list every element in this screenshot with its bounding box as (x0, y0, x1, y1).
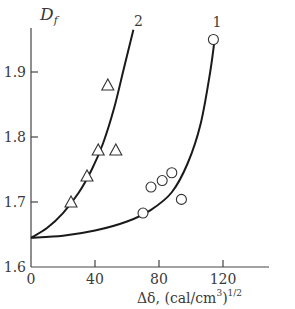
curve-1 (31, 36, 215, 238)
circle-marker (146, 182, 156, 192)
x-tick-label: 120 (210, 271, 237, 287)
chart-figure: 1.61.71.81.9 04080120 Df Δδ, (cal/cm3)1/… (0, 0, 295, 309)
circle-marker (167, 168, 177, 178)
x-tick-label: 0 (27, 271, 36, 287)
circle-marker (157, 176, 167, 186)
y-tick-label: 1.7 (4, 194, 26, 210)
curve-labels: 12 (134, 13, 222, 30)
curve-label-1: 1 (213, 14, 222, 30)
fit-curves (31, 30, 215, 238)
y-tick-label: 1.8 (4, 129, 26, 145)
triangle-marker (102, 79, 114, 90)
data-markers (65, 35, 218, 219)
curve-2 (31, 30, 133, 238)
x-ticks: 04080120 (27, 260, 237, 287)
y-axis-label: Df (39, 4, 60, 27)
circle-marker (138, 208, 148, 218)
curve-label-2: 2 (134, 13, 143, 29)
y-tick-label: 1.6 (4, 259, 26, 275)
axes (31, 28, 269, 267)
y-ticks: 1.61.71.81.9 (4, 64, 38, 275)
x-tick-label: 80 (150, 271, 168, 287)
triangle-marker (110, 144, 122, 155)
circle-marker (176, 194, 186, 204)
circle-marker (208, 35, 218, 45)
y-tick-label: 1.9 (4, 64, 26, 80)
x-axis-label: Δδ, (cal/cm3)1/2 (137, 288, 242, 306)
x-tick-label: 40 (86, 271, 104, 287)
